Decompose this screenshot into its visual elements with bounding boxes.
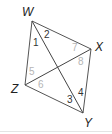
side-yz <box>25 85 83 113</box>
angle-label-3: 3 <box>67 94 73 105</box>
quadrilateral-diagram: W X Y Z 1 2 7 8 5 6 3 4 <box>0 0 112 134</box>
angle-label-1: 1 <box>33 37 39 48</box>
angle-label-7: 7 <box>72 42 78 53</box>
angle-label-4: 4 <box>78 87 84 98</box>
side-xy <box>83 49 91 113</box>
vertex-label-y: Y <box>84 116 93 130</box>
vertex-label-z: Z <box>10 82 19 96</box>
angle-label-5: 5 <box>29 66 35 77</box>
bottom-divider <box>0 131 112 132</box>
vertex-label-w: W <box>22 5 35 19</box>
angle-label-8: 8 <box>78 56 84 67</box>
vertex-label-x: X <box>94 40 104 54</box>
side-wx <box>32 21 91 49</box>
angle-label-6: 6 <box>38 79 44 90</box>
diagonal-zx <box>25 49 91 85</box>
angle-label-2: 2 <box>44 29 50 40</box>
